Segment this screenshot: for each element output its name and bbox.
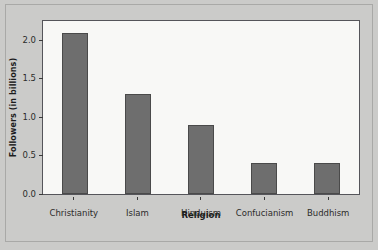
y-tick-label: 1.0 bbox=[22, 113, 39, 122]
bar-confucianism[interactable] bbox=[251, 163, 277, 194]
bar-slot bbox=[106, 21, 169, 194]
x-tick-mark bbox=[328, 197, 329, 200]
bar-slot bbox=[43, 21, 106, 194]
x-tick-mark bbox=[200, 197, 201, 200]
bar-islam[interactable] bbox=[125, 94, 151, 194]
y-tick-label: 0.5 bbox=[22, 151, 39, 160]
bar-hinduism[interactable] bbox=[188, 125, 214, 194]
y-tick-label: 2.0 bbox=[22, 36, 39, 45]
y-axis-title: Followers (in billions) bbox=[8, 20, 20, 195]
chart-page: Followers (in billions) 0.0 0.5 1.0 1.5 bbox=[0, 0, 378, 250]
plot-area: 0.0 0.5 1.0 1.5 2.0 bbox=[42, 20, 360, 195]
bar-series bbox=[43, 21, 359, 194]
x-tick-mark bbox=[73, 197, 74, 200]
x-tick-mark bbox=[264, 197, 265, 200]
plot-inner: 0.0 0.5 1.0 1.5 2.0 bbox=[43, 21, 359, 194]
x-axis-title: Religion bbox=[42, 210, 360, 220]
bar-buddhism[interactable] bbox=[314, 163, 340, 194]
bar-slot bbox=[233, 21, 296, 194]
bar-slot bbox=[169, 21, 232, 194]
bar-slot bbox=[296, 21, 359, 194]
x-tick-mark bbox=[137, 197, 138, 200]
y-tick-label: 0.0 bbox=[22, 190, 39, 199]
y-tick-label: 1.5 bbox=[22, 74, 39, 83]
bar-christianity[interactable] bbox=[62, 33, 88, 194]
y-axis-title-text: Followers (in billions) bbox=[10, 58, 19, 157]
